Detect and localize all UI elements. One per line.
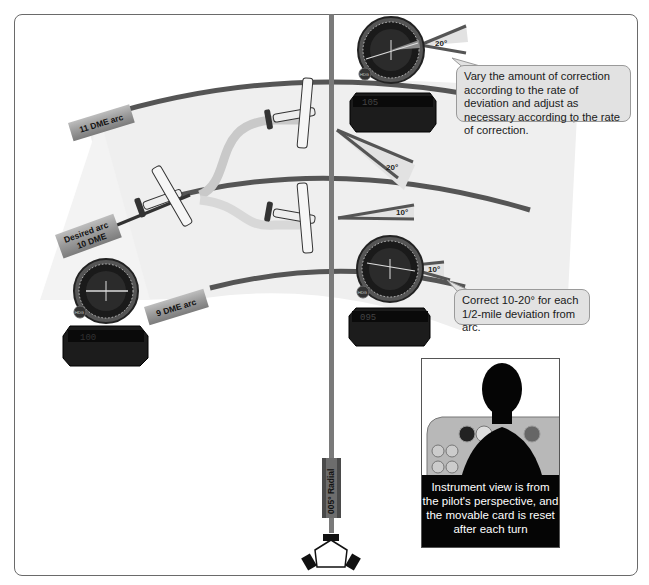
- callout-correct-deviation: Correct 10-20° for each 1/2-mile deviati…: [454, 289, 590, 325]
- svg-text:10°: 10°: [428, 265, 440, 274]
- radial-label: 005° Radial: [326, 469, 336, 514]
- radial-005: [329, 14, 334, 474]
- svg-text:HDG: HDG: [75, 310, 84, 315]
- pilot-perspective-panel: Instrument view is from the pilot's pers…: [421, 358, 560, 548]
- svg-text:105: 105: [362, 98, 378, 108]
- svg-text:20°: 20°: [435, 39, 447, 48]
- svg-text:20°: 20°: [386, 163, 398, 172]
- callout-vary-correction: Vary the amount of correction according …: [456, 65, 631, 122]
- svg-text:095: 095: [360, 313, 376, 323]
- svg-text:100: 100: [80, 333, 96, 343]
- svg-text:HDG: HDG: [358, 290, 367, 295]
- svg-text:10°: 10°: [396, 208, 408, 217]
- vor-station-icon: [301, 534, 361, 571]
- pilot-caption: Instrument view is from the pilot's pers…: [422, 475, 559, 547]
- svg-text:HDG: HDG: [360, 72, 369, 77]
